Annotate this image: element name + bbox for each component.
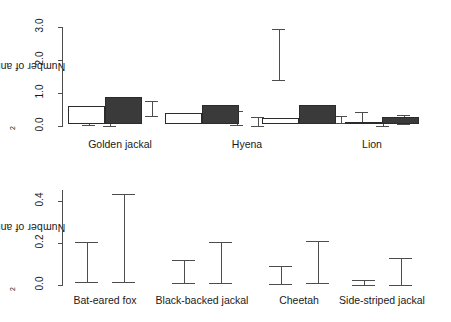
chart-panel-bottom: Number of animals per km2 0.00.20.4 Bat-… [0, 161, 451, 322]
bar-series-1-white [262, 118, 299, 124]
y-axis-label-bottom: Number of animals per km2 [0, 161, 20, 296]
x-axis-category-label: Black-backed jackal [156, 294, 249, 306]
error-bar-line [87, 242, 88, 283]
error-bar-cap-upper [389, 258, 412, 259]
y-axis-tick-label: 1.0 [34, 79, 45, 105]
error-bar-cap-lower [272, 80, 285, 81]
error-bar-cap-upper [355, 112, 368, 113]
error-bar-line [401, 258, 402, 285]
bar-series-2-dark [105, 97, 142, 124]
y-axis-label-top-superscript: 2 [9, 126, 16, 130]
error-bar-cap-upper [272, 29, 285, 30]
bar-series-2-dark [202, 105, 239, 124]
x-axis-category-label: Side-striped jackal [339, 294, 425, 306]
error-bar-line [152, 101, 153, 116]
error-bar-line [279, 29, 280, 80]
error-bar-cap-upper [209, 242, 232, 243]
error-bar-cap-lower [230, 125, 243, 126]
error-bar-cap-lower [376, 126, 389, 127]
error-bar-line [221, 242, 222, 283]
error-bar-cap-lower [103, 126, 116, 127]
bar-series-1-white [165, 113, 202, 124]
error-bar-cap-lower [269, 284, 292, 285]
bar-series-1-white [345, 122, 382, 124]
y-axis-tick-label: 3.0 [34, 13, 45, 39]
y-axis-tick-label: 0.2 [34, 228, 45, 254]
error-bar-cap-lower [352, 285, 375, 286]
error-bar-cap-upper [172, 260, 195, 261]
error-bar-line [124, 194, 125, 282]
bar-series-2-dark [382, 117, 419, 124]
error-bar-cap-lower [172, 283, 195, 284]
y-axis-tick-label: 0.0 [34, 112, 45, 138]
error-bar-cap-upper [75, 242, 98, 243]
error-bar-cap-lower [209, 283, 232, 284]
error-bar-line [341, 116, 342, 123]
x-axis-category-label: Hyena [232, 138, 262, 150]
error-bar-cap-lower [306, 283, 329, 284]
y-axis-tick [58, 126, 62, 127]
error-bar-cap-upper [306, 241, 329, 242]
y-axis-tick [58, 93, 62, 94]
error-bar-line [318, 241, 319, 284]
error-bar-line [184, 260, 185, 284]
x-axis-category-label: Cheetah [279, 294, 319, 306]
bar-series-2-dark [299, 105, 336, 124]
y-axis-tick [58, 243, 62, 244]
error-bar-cap-upper [112, 194, 135, 195]
y-axis-spine [62, 27, 63, 127]
x-axis-category-label: Golden jackal [88, 138, 152, 150]
y-axis-tick [58, 60, 62, 61]
error-bar-cap-lower [145, 116, 158, 117]
error-bar-cap-lower [397, 124, 410, 125]
y-axis-tick [58, 285, 62, 286]
x-axis-category-label: Lion [362, 138, 382, 150]
y-axis-tick-label: 0.0 [34, 271, 45, 297]
error-bar-cap-lower [389, 285, 412, 286]
error-bar-cap-lower [112, 282, 135, 283]
figure-container: Number of animals per km2 0.01.02.03.0 G… [0, 0, 451, 322]
y-axis-tick [58, 201, 62, 202]
error-bar-cap-upper [145, 101, 158, 102]
error-bar-cap-upper [269, 266, 292, 267]
bar-series-1-white [68, 106, 105, 124]
error-bar-cap-lower [251, 126, 264, 127]
y-axis-label-bottom-superscript: 2 [9, 287, 16, 291]
error-bar-line [281, 266, 282, 285]
y-axis-spine [62, 190, 63, 286]
chart-panel-top: Number of animals per km2 0.01.02.03.0 G… [0, 0, 451, 161]
error-bar-cap-lower [75, 282, 98, 283]
y-axis-tick-label: 2.0 [34, 46, 45, 72]
y-axis-tick [58, 27, 62, 28]
y-axis-label-top: Number of animals per km2 [0, 0, 20, 135]
error-bar-line [258, 117, 259, 126]
x-axis-category-label: Bat-eared fox [73, 294, 136, 306]
error-bar-cap-upper [352, 280, 375, 281]
error-bar-cap-lower [82, 125, 95, 126]
y-axis-tick-label: 0.4 [34, 186, 45, 212]
